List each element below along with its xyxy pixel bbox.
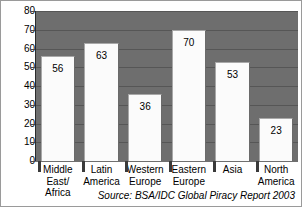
x-axis-tick-mark (82, 161, 85, 172)
x-axis-tick-mark (256, 161, 259, 172)
x-axis-category-label: LatinAmerica (80, 164, 124, 187)
x-axis-label-line: Latin (80, 164, 124, 176)
bar-value-label: 56 (42, 63, 75, 74)
x-axis-category-label: Asia (211, 164, 255, 176)
chart-figure: 01020304050607080 566336705323 MiddleEas… (0, 0, 302, 207)
x-axis-label-line: Europe (123, 176, 167, 188)
bar: 53 (215, 62, 250, 161)
gridline (36, 49, 298, 50)
x-axis-label-line: Africa (36, 187, 80, 199)
x-axis-tick-mark (38, 161, 41, 172)
x-axis-category-label: MiddleEast/Africa (36, 164, 80, 199)
y-axis-tick-labels: 01020304050607080 (1, 11, 35, 161)
gridline (36, 11, 298, 12)
x-axis-label-line: Middle (36, 164, 80, 176)
x-axis-label-line: East/ (36, 176, 80, 188)
bar: 63 (84, 43, 119, 161)
bar-value-label: 53 (216, 69, 249, 80)
x-axis-label-line: Europe (167, 176, 211, 188)
bar-value-label: 23 (260, 125, 293, 136)
bar: 56 (41, 56, 76, 161)
bar: 23 (259, 118, 294, 161)
x-axis-tick-mark (169, 161, 172, 172)
bar: 36 (128, 94, 163, 162)
x-axis-category-label: EasternEurope (167, 164, 211, 187)
gridline (36, 86, 298, 87)
x-axis-label-line: America (254, 176, 298, 188)
bar-value-label: 36 (129, 101, 162, 112)
plot-area: 566336705323 (36, 11, 298, 161)
bar-value-label: 70 (173, 37, 206, 48)
x-axis-label-line: Asia (211, 164, 255, 176)
x-axis-tick-mark (125, 161, 128, 172)
x-axis-category-label: WesternEurope (123, 164, 167, 187)
bar-value-label: 63 (85, 50, 118, 61)
x-axis-tick-mark (213, 161, 216, 172)
x-axis-label-line: North (254, 164, 298, 176)
x-axis-label-line: Western (123, 164, 167, 176)
x-axis-label-line: America (80, 176, 124, 188)
x-axis-label-line: Eastern (167, 164, 211, 176)
gridline (36, 105, 298, 106)
gridline (36, 30, 298, 31)
bar: 70 (172, 30, 207, 161)
gridline (36, 67, 298, 68)
source-annotation: Source: BSA/IDC Global Piracy Report 200… (98, 190, 295, 201)
x-axis-category-label: NorthAmerica (254, 164, 298, 187)
